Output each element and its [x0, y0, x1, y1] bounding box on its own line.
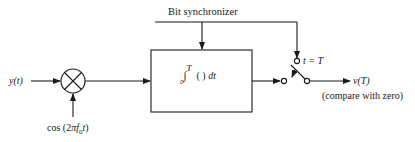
input-label: y(t)	[9, 76, 23, 86]
switch-time-label: t = T	[303, 56, 323, 66]
integrator-block	[151, 50, 252, 112]
switch-output-contact	[304, 78, 309, 83]
bit-synchronizer-label: Bit synchronizer	[168, 7, 238, 18]
output-label: v(T)	[353, 76, 370, 86]
switch-control-contact	[294, 58, 299, 63]
oscillator-label: cos (2πf0t)	[47, 123, 89, 136]
output-note-label: (compare with zero)	[322, 91, 403, 101]
integrator-label: 0∫T ( ) dt	[180, 70, 216, 81]
switch-input-contact	[281, 78, 286, 83]
switch-blade	[291, 65, 305, 79]
